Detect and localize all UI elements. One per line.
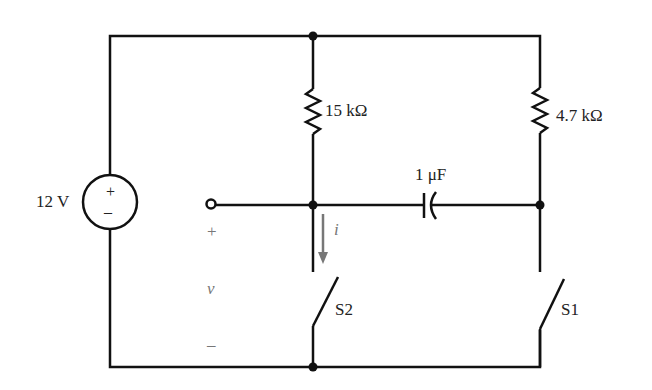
circuit-schematic <box>0 0 652 390</box>
switch-s1-label: S1 <box>561 300 579 320</box>
capacitor-label: 1 μF <box>415 165 446 185</box>
bottom-wire <box>110 229 540 367</box>
source-label: 12 V <box>36 192 69 212</box>
voltage-plus: + <box>207 222 217 242</box>
switch-s2-label: S2 <box>335 300 353 320</box>
voltage-label: v <box>207 279 215 299</box>
voltage-minus: – <box>207 335 216 355</box>
terminal <box>207 200 216 209</box>
resistor-15k-label: 15 kΩ <box>325 101 367 121</box>
resistor-15k <box>306 89 320 134</box>
resistor-4k7 <box>533 88 547 133</box>
source-plus: + <box>106 183 115 201</box>
source-minus: – <box>104 203 112 221</box>
circuit-diagram: + – 12 V 15 kΩ 4.7 kΩ 1 μF i + v – S2 S1 <box>0 0 652 390</box>
current-label: i <box>334 220 339 240</box>
resistor-4k7-label: 4.7 kΩ <box>556 106 603 126</box>
current-arrow <box>318 252 328 264</box>
